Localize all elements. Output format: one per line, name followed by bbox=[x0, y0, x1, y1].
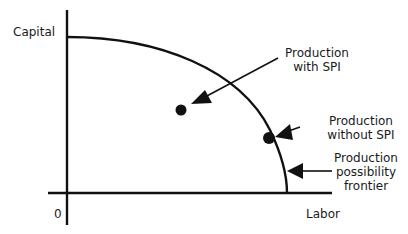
label-without-spi-line1: Production bbox=[320, 114, 402, 128]
point-without-spi bbox=[263, 132, 275, 144]
label-ppf-line3: frontier bbox=[330, 179, 402, 193]
point-with-spi bbox=[176, 105, 187, 116]
label-with-spi-line1: Production bbox=[282, 46, 352, 60]
origin-label: 0 bbox=[54, 207, 62, 221]
arrow-without-spi-head bbox=[275, 124, 293, 140]
arrow-ppf-head bbox=[287, 163, 303, 179]
y-axis-label: Capital bbox=[13, 25, 55, 39]
x-axis-label: Labor bbox=[306, 207, 340, 221]
label-without-spi: Production without SPI bbox=[320, 114, 402, 142]
label-with-spi-line2: with SPI bbox=[282, 60, 352, 74]
arrow-with-spi-head bbox=[191, 90, 212, 104]
label-ppf: Production possibility frontier bbox=[330, 151, 402, 193]
label-with-spi: Production with SPI bbox=[282, 46, 352, 74]
label-ppf-line1: Production bbox=[330, 151, 402, 165]
label-without-spi-line2: without SPI bbox=[320, 128, 402, 142]
ppf-curve bbox=[67, 37, 287, 193]
label-ppf-line2: possibility bbox=[330, 165, 402, 179]
